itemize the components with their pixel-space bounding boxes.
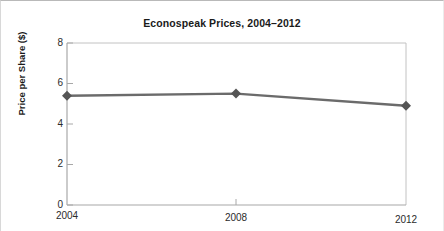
plot-area [0, 0, 444, 231]
data-point-markers [62, 89, 411, 111]
axis-frame [67, 43, 406, 205]
chart-figure: Econospeak Prices, 2004–2012 Price per S… [0, 0, 444, 231]
y-axis-ticks [67, 43, 73, 205]
